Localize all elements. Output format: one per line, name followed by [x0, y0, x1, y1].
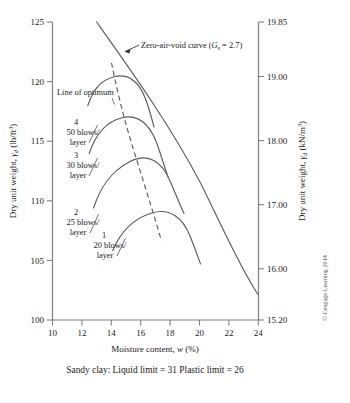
curve-3-line2: layer — [70, 171, 87, 180]
compaction-curve-20-blows — [113, 212, 201, 264]
y-left-tick-label: 100 — [31, 315, 45, 325]
chart-svg: 125 120 115 110 105 100 19.85 19.00 18.0… — [0, 0, 350, 403]
y-right-tick-label: 19.85 — [267, 17, 288, 27]
curve-1-number: 1 — [102, 231, 106, 240]
x-tick-label: 24 — [254, 328, 264, 338]
copyright-credit: © Cengage Learning 2014 — [321, 255, 328, 321]
curve-2-annotation: 2 25 blows/ layer — [67, 208, 100, 237]
curve-2-line2: layer — [70, 228, 87, 237]
curve-4-annotation: 4 50 blows/ layer — [67, 118, 100, 147]
line-of-optimum-label: Line of optimum — [57, 88, 114, 97]
line-of-optimum-leader — [112, 98, 115, 105]
zav-arrowhead-icon — [124, 49, 130, 54]
figure-caption: Sandy clay: Liquid limit = 31 Plastic li… — [66, 365, 244, 375]
y-left-axis-title: Dry unit weight, γd (lb/ft3) — [7, 124, 19, 218]
zero-air-void-annotation: Zero-air-void curve (Gs = 2.7) — [124, 41, 242, 54]
curve-1-annotation: 1 20 blows/ layer — [94, 231, 127, 260]
x-tick-label: 10 — [48, 328, 58, 338]
zav-label: Zero-air-void curve (Gs = 2.7) — [141, 41, 242, 51]
y-left-tick-label: 105 — [31, 256, 45, 266]
curve-3-annotation: 3 30 blows/ layer — [67, 151, 100, 180]
x-tick-label: 16 — [136, 328, 146, 338]
y-left-tick-label: 115 — [31, 136, 45, 146]
x-tick-label: 22 — [224, 328, 233, 338]
y-right-axis-title: Dry unit weight, γd (kN/m3) — [296, 121, 308, 221]
compaction-curve-25-blows — [94, 158, 184, 214]
x-tick-label: 18 — [166, 328, 176, 338]
curve-2-number: 2 — [74, 208, 78, 217]
x-tick-label: 20 — [195, 328, 205, 338]
zero-air-void-curve — [97, 22, 258, 295]
x-tick-label: 14 — [107, 328, 117, 338]
y-left-tick-label: 120 — [31, 77, 45, 87]
x-tick-label: 12 — [77, 328, 86, 338]
x-ticks: 10 12 14 16 18 20 22 24 — [48, 320, 263, 338]
y-right-tick-label: 16.00 — [267, 264, 288, 274]
compaction-curve-50-blows — [88, 76, 154, 127]
compaction-curve-figure: 125 120 115 110 105 100 19.85 19.00 18.0… — [0, 0, 350, 403]
curve-4-line2: layer — [70, 138, 87, 147]
y-left-ticks: 125 120 115 110 105 100 — [31, 17, 53, 325]
curve-1-line2: layer — [97, 251, 114, 260]
line-of-optimum-annotation: Line of optimum — [57, 88, 115, 105]
y-left-tick-label: 125 — [31, 17, 45, 27]
x-axis-title: Moisture content, w (%) — [111, 344, 199, 354]
curve-3-number: 3 — [74, 151, 78, 160]
y-right-ticks: 19.85 19.00 18.00 17.00 16.00 15.20 — [259, 17, 288, 325]
y-right-tick-label: 19.00 — [267, 72, 288, 82]
y-right-tick-label: 15.20 — [267, 315, 288, 325]
line-of-optimum — [112, 63, 162, 241]
y-right-tick-label: 18.00 — [267, 136, 288, 146]
compaction-curve-30-blows — [89, 117, 168, 177]
y-left-tick-label: 110 — [31, 196, 45, 206]
curve-4-number: 4 — [74, 118, 79, 127]
y-right-tick-label: 17.00 — [267, 200, 288, 210]
